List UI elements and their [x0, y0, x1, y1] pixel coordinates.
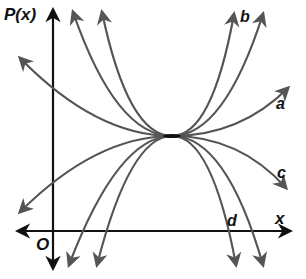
curve-d-outer	[69, 136, 263, 265]
curve-label-b: b	[240, 9, 250, 25]
curve-b	[102, 12, 234, 136]
curve-label-d: d	[227, 213, 237, 229]
x-axis-label: x	[275, 210, 284, 227]
common-vertex	[163, 134, 181, 138]
curve-a	[20, 58, 288, 136]
curve-label-a: a	[276, 96, 285, 112]
curve-d	[97, 136, 236, 265]
y-axis-label: P(x)	[4, 6, 36, 23]
curve-c	[20, 136, 286, 212]
curve-label-c: c	[277, 165, 286, 181]
origin-label: O	[36, 236, 49, 253]
curve-b-outer	[73, 12, 263, 136]
